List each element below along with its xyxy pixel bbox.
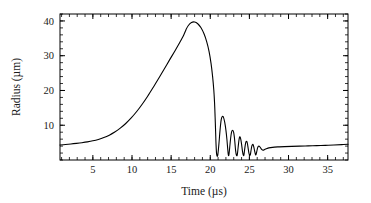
x-axis-title: Time (µs) — [181, 185, 227, 198]
x-tick-label: 30 — [283, 164, 294, 175]
x-tick-label: 20 — [205, 164, 216, 175]
y-axis-title: Radius (µm) — [10, 58, 23, 116]
x-tick-label: 5 — [90, 164, 95, 175]
radius-vs-time-line-chart: 5101520253035 10203040 Time (µs) Radius … — [0, 0, 371, 203]
x-tick-label: 10 — [127, 164, 138, 175]
y-tick-label: 40 — [44, 16, 55, 27]
x-tick-label: 25 — [244, 164, 255, 175]
chart-figure: 5101520253035 10203040 Time (µs) Radius … — [0, 0, 371, 203]
y-tick-label: 30 — [44, 50, 55, 61]
x-tick-label: 35 — [322, 164, 333, 175]
x-tick-label: 15 — [166, 164, 177, 175]
y-tick-label: 20 — [44, 85, 55, 96]
y-tick-label: 10 — [44, 120, 55, 131]
